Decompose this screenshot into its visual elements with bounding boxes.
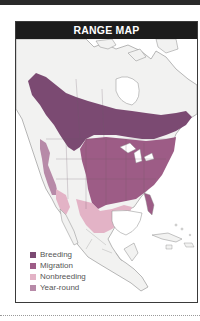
legend-item-year-round: Year-round — [30, 282, 86, 293]
legend-item-migration: Migration — [30, 260, 86, 271]
breeding-swatch — [30, 252, 36, 258]
range-map-title: RANGE MAP — [16, 22, 197, 39]
migration-swatch — [30, 263, 36, 269]
top-band — [0, 0, 200, 5]
legend-label: Year-round — [40, 283, 79, 292]
range-map-panel: RANGE MAP — [15, 21, 198, 303]
legend-label: Breeding — [40, 250, 72, 259]
legend-item-breeding: Breeding — [30, 249, 86, 260]
legend-item-nonbreeding: Nonbreeding — [30, 271, 86, 282]
map-legend: Breeding Migration Nonbreeding Year-roun… — [30, 249, 86, 293]
legend-label: Migration — [40, 261, 73, 270]
year-round-swatch — [30, 285, 36, 291]
dotted-divider — [0, 315, 200, 316]
legend-label: Nonbreeding — [40, 272, 86, 281]
nonbreeding-swatch — [30, 274, 36, 280]
